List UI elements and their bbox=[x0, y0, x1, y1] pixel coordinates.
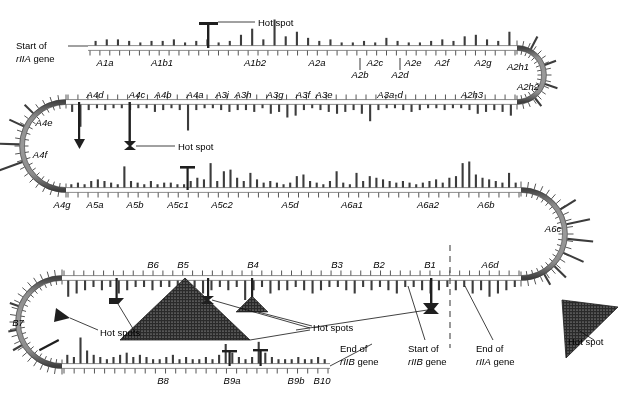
tick-mark bbox=[567, 227, 573, 228]
mutation-bar bbox=[152, 359, 154, 363]
segment-label-a3i: A3i bbox=[214, 89, 230, 100]
mutation-bar bbox=[271, 357, 273, 364]
mutation-bar bbox=[428, 181, 430, 188]
tick-mark bbox=[47, 109, 49, 113]
mutation-bar bbox=[196, 178, 198, 188]
mutation-bar bbox=[455, 176, 457, 187]
mutation-bar bbox=[296, 32, 298, 46]
mutation-bar bbox=[510, 105, 512, 116]
tick-mark bbox=[28, 357, 32, 362]
mutation-bar bbox=[361, 105, 363, 114]
mutation-bar bbox=[132, 357, 134, 364]
tick-mark bbox=[538, 96, 542, 100]
mutation-bar bbox=[427, 105, 429, 109]
mutation-bar bbox=[382, 179, 384, 187]
mutation-bar bbox=[452, 105, 454, 109]
mutation-bar bbox=[162, 105, 164, 111]
hotspot-a4d-stem bbox=[78, 102, 80, 140]
mutation-bar bbox=[404, 281, 406, 288]
annotation-start-rIIB: Start of rIIB gene bbox=[408, 343, 447, 367]
segment-label-a2g: A2g bbox=[474, 57, 493, 68]
tick-mark bbox=[534, 61, 537, 63]
mutation-bar bbox=[441, 39, 443, 45]
mutation-bar bbox=[488, 281, 490, 297]
segment-label-b10: B10 bbox=[314, 375, 332, 386]
mutation-bar bbox=[354, 281, 356, 294]
mutation-bar bbox=[475, 175, 477, 188]
segment-label-b9b: B9b bbox=[288, 375, 305, 386]
mutation-bar bbox=[302, 175, 304, 188]
mutation-bar bbox=[452, 41, 454, 46]
mutation-bar bbox=[320, 281, 322, 291]
tick-mark bbox=[60, 183, 61, 187]
mutation-bar bbox=[370, 281, 372, 291]
segment-label-a3h: A3h bbox=[234, 89, 252, 100]
tick-mark bbox=[544, 86, 549, 88]
hotspot-b1-cap bbox=[423, 303, 439, 314]
mutation-bar bbox=[444, 105, 446, 111]
tick-mark bbox=[42, 112, 44, 115]
segment-label-a4f: A4f bbox=[32, 149, 49, 160]
tick-mark bbox=[521, 95, 522, 99]
segment-label-a2h3: A2h3 bbox=[460, 89, 484, 100]
mutation-bar bbox=[544, 274, 550, 284]
tick-mark bbox=[549, 207, 552, 210]
mutation-bar bbox=[410, 105, 412, 112]
mutation-bar bbox=[344, 105, 346, 112]
mutation-bar bbox=[286, 281, 288, 291]
mutation-bar bbox=[341, 42, 343, 45]
tick-mark bbox=[45, 284, 47, 288]
mutation-bar bbox=[386, 105, 388, 109]
mutation-bar bbox=[135, 281, 137, 288]
tick-mark bbox=[528, 43, 530, 48]
tick-mark bbox=[47, 272, 49, 278]
tick-mark bbox=[18, 294, 23, 297]
mutation-bar bbox=[123, 166, 125, 187]
hotspot-a5c2-cap bbox=[180, 166, 195, 169]
tick-mark bbox=[22, 288, 27, 292]
tick-mark bbox=[27, 133, 31, 134]
mutation-bar bbox=[402, 105, 404, 111]
leader-hotspot-b5big bbox=[250, 330, 310, 340]
segment-label-a4g: A4g bbox=[53, 199, 72, 210]
start-rIIA-line2: rIIA gene bbox=[16, 53, 55, 64]
tick-mark bbox=[528, 92, 530, 95]
mutation-bar bbox=[262, 39, 264, 45]
tick-mark bbox=[25, 152, 29, 153]
mutation-bar bbox=[505, 281, 507, 291]
tick-mark bbox=[556, 200, 561, 204]
mutation-bar bbox=[283, 184, 285, 187]
tick-mark bbox=[43, 187, 45, 191]
mutation-bar bbox=[170, 105, 172, 109]
mutation-bar bbox=[117, 39, 119, 45]
mutation-bar bbox=[112, 357, 114, 364]
mutation-bar bbox=[488, 179, 490, 187]
tick-mark bbox=[546, 81, 551, 82]
mutation-bar bbox=[126, 353, 128, 364]
mutation-bar bbox=[156, 184, 158, 187]
mutation-bar bbox=[195, 105, 197, 111]
mutation-bar bbox=[195, 41, 197, 46]
tick-mark bbox=[15, 138, 20, 139]
mutation-bar bbox=[369, 105, 371, 122]
mutation-bar bbox=[119, 355, 121, 364]
start-rIIB-line2: rIIB gene bbox=[408, 356, 447, 367]
bar-b9a-1-stem bbox=[229, 352, 231, 366]
mutation-bar bbox=[396, 281, 398, 294]
tick-mark bbox=[27, 342, 30, 344]
tick-mark bbox=[12, 335, 18, 337]
mutation-bar bbox=[286, 105, 288, 118]
mutation-bar bbox=[278, 281, 280, 291]
tick-mark bbox=[22, 333, 26, 334]
segment-label-a5a: A5a bbox=[86, 199, 104, 210]
mutation-bar bbox=[67, 281, 69, 297]
tick-mark bbox=[40, 354, 42, 357]
mutation-bar bbox=[362, 281, 364, 288]
tick-mark bbox=[553, 212, 556, 214]
tick-mark bbox=[28, 282, 32, 287]
mutation-bar bbox=[394, 105, 396, 109]
segment-label-a2b: A2b bbox=[351, 69, 369, 80]
segment-label-a2d: A2d bbox=[391, 69, 410, 80]
mutation-bar bbox=[277, 359, 279, 363]
mutation-bar bbox=[502, 105, 504, 112]
